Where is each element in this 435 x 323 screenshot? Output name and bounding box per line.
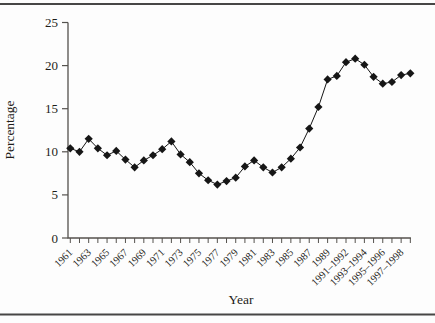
data-point-diamond [360, 61, 368, 69]
data-point-diamond [333, 72, 341, 80]
data-point-diamond [103, 151, 111, 159]
data-point-diamond [75, 148, 83, 156]
data-point-diamond [213, 180, 221, 188]
x-tick-label: 1967 [107, 247, 130, 270]
x-tick-label: 1973 [162, 247, 185, 270]
data-point-diamond [406, 69, 414, 77]
x-tick-label: 1985 [273, 247, 296, 270]
data-point-diamond [268, 168, 276, 176]
x-tick-label: 1961 [52, 247, 75, 270]
y-tick-label: 10 [45, 144, 58, 159]
data-point-diamond [140, 156, 148, 164]
data-point-diamond [369, 73, 377, 81]
data-point-diamond [250, 156, 258, 164]
y-tick-label: 25 [45, 15, 58, 30]
x-tick-label: 1979 [218, 247, 241, 270]
y-tick-label: 20 [45, 58, 58, 73]
chart-figure: Percentage Year 252015105019611963196519… [0, 0, 435, 323]
data-point-diamond [314, 103, 322, 111]
y-axis-title: Percentage [2, 100, 17, 159]
x-tick-label: 1971 [144, 247, 167, 270]
data-point-diamond [149, 151, 157, 159]
data-point-diamond [204, 176, 212, 184]
x-tick-label: 1987 [291, 247, 314, 270]
x-tick-label: 1963 [70, 247, 93, 270]
x-tick-label: 1983 [254, 247, 277, 270]
data-point-diamond [397, 71, 405, 79]
data-point-diamond [259, 163, 267, 171]
data-line [70, 59, 410, 185]
x-tick-label: 1965 [89, 247, 112, 270]
y-tick-label: 15 [45, 101, 58, 116]
data-point-diamond [342, 58, 350, 66]
y-tick-label: 5 [52, 187, 59, 202]
y-tick-label: 0 [52, 231, 59, 246]
x-tick-label: 1981 [236, 247, 259, 270]
data-point-diamond [388, 78, 396, 86]
x-tick-label: 1977 [199, 247, 222, 270]
x-tick-label: 1975 [181, 247, 204, 270]
x-axis-title: Year [229, 292, 254, 307]
x-tick-label: 1969 [126, 247, 149, 270]
axes [68, 23, 411, 239]
data-point-diamond [379, 80, 387, 88]
data-point-diamond [222, 177, 230, 185]
data-point-diamond [305, 124, 313, 132]
data-point-diamond [351, 55, 359, 63]
data-point-diamond [324, 75, 332, 83]
plot-area: 2520151050196119631965196719691971197319… [45, 15, 414, 288]
line-chart: Percentage Year 252015105019611963196519… [0, 0, 435, 323]
